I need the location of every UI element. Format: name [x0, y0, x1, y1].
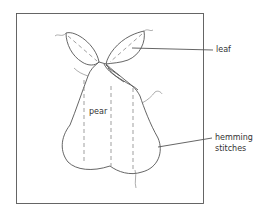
pear-label: pear [89, 107, 107, 116]
leaf-label: leaf [216, 45, 231, 54]
right-leaf [106, 30, 153, 64]
pear-applique-diagram [0, 0, 271, 210]
hemming-label-line2: stitches [215, 144, 246, 153]
loose-threads [74, 68, 162, 188]
stitch-guidelines [84, 80, 133, 172]
fabric-square-frame [17, 14, 204, 204]
leaf-leader-line [132, 48, 213, 50]
left-leaf [55, 33, 99, 65]
hemming-label-line1: hemming [215, 133, 253, 142]
